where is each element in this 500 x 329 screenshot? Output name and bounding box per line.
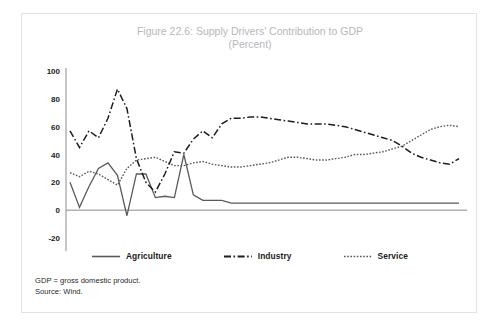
- chart-plot: 100806040200-20 197919831987199119951999…: [22, 46, 478, 251]
- legend-label-industry: Industry: [258, 251, 292, 261]
- y-tick-80: 80: [51, 95, 60, 104]
- figure-card: Figure 22.6: Supply Drivers' Contributio…: [21, 13, 477, 313]
- y-axis-tick-labels: 100806040200-20: [47, 67, 61, 243]
- legend-item-service[interactable]: Service: [344, 251, 409, 261]
- legend-label-service: Service: [378, 251, 409, 261]
- chart-legend: Agriculture Industry Service: [22, 251, 478, 261]
- y-tick-40: 40: [51, 151, 60, 160]
- series-line-agriculture: [70, 155, 459, 216]
- y-tick-100: 100: [47, 67, 61, 76]
- legend-item-industry[interactable]: Industry: [224, 251, 292, 261]
- series-line-industry: [70, 89, 459, 192]
- chart-title-line1: Figure 22.6: Supply Drivers' Contributio…: [137, 25, 363, 37]
- y-tick-60: 60: [51, 123, 60, 132]
- legend-label-agriculture: Agriculture: [126, 251, 172, 261]
- y-tick-20: 20: [51, 178, 60, 187]
- legend-item-agriculture[interactable]: Agriculture: [92, 251, 172, 261]
- footnote-source: Source: Wind.: [35, 287, 455, 298]
- footnote-definition: GDP = gross domestic product.: [35, 276, 455, 287]
- y-tick-0: 0: [56, 206, 61, 215]
- y-tick--20: -20: [48, 234, 60, 243]
- figure-footnotes: GDP = gross domestic product. Source: Wi…: [35, 276, 455, 297]
- series-line-service: [70, 125, 459, 185]
- legend-swatch-industry: [224, 252, 252, 261]
- legend-swatch-service: [344, 252, 372, 261]
- legend-swatch-agriculture: [92, 252, 120, 261]
